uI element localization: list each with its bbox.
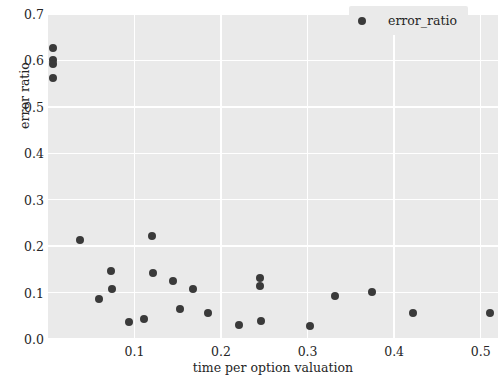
data-point xyxy=(176,305,184,313)
data-point xyxy=(149,269,157,277)
data-point xyxy=(306,322,314,330)
y-tick-label: 0.1 xyxy=(2,285,44,300)
vertical-gridline xyxy=(393,14,394,339)
horizontal-gridline xyxy=(48,292,498,293)
legend-circle-marker-icon xyxy=(358,17,366,25)
data-point xyxy=(49,60,57,68)
horizontal-gridline xyxy=(48,153,498,154)
data-point xyxy=(169,277,177,285)
x-tick-label: 0.2 xyxy=(211,344,231,359)
data-point xyxy=(235,321,243,329)
x-tick-label: 0.1 xyxy=(125,344,145,359)
legend-entry-label: error_ratio xyxy=(388,13,457,28)
y-axis-title: error ratio xyxy=(17,26,32,166)
data-point xyxy=(76,236,84,244)
legend: error_ratio xyxy=(349,6,468,35)
data-point xyxy=(125,318,133,326)
y-tick-label: 0.7 xyxy=(2,7,44,22)
data-point xyxy=(49,74,57,82)
scatter-chart-figure: 0.00.10.20.30.40.50.60.7 time per option… xyxy=(0,0,498,380)
y-tick-label: 0.0 xyxy=(2,332,44,347)
data-point xyxy=(331,292,339,300)
data-point xyxy=(486,309,494,317)
horizontal-gridline xyxy=(48,338,498,339)
y-tick-label: 0.2 xyxy=(2,239,44,254)
y-tick-label: 0.3 xyxy=(2,192,44,207)
vertical-gridline xyxy=(480,14,481,339)
data-point xyxy=(256,282,264,290)
data-point xyxy=(49,44,57,52)
x-tick-label: 0.3 xyxy=(298,344,318,359)
data-point xyxy=(148,232,156,240)
data-point xyxy=(204,309,212,317)
data-point xyxy=(368,288,376,296)
horizontal-gridline xyxy=(48,245,498,246)
data-point xyxy=(409,309,417,317)
data-point xyxy=(257,317,265,325)
vertical-gridline xyxy=(134,14,135,339)
x-tick-label: 0.5 xyxy=(471,344,491,359)
plot-area xyxy=(48,14,498,339)
x-tick-label: 0.4 xyxy=(384,344,404,359)
data-point xyxy=(256,274,264,282)
data-point xyxy=(107,267,115,275)
data-point xyxy=(95,295,103,303)
horizontal-gridline xyxy=(48,106,498,107)
horizontal-gridline xyxy=(48,60,498,61)
vertical-gridline xyxy=(220,14,221,339)
data-point xyxy=(140,315,148,323)
x-axis-title: time per option valuation xyxy=(48,360,498,375)
horizontal-gridline xyxy=(48,199,498,200)
vertical-gridline xyxy=(307,14,308,339)
